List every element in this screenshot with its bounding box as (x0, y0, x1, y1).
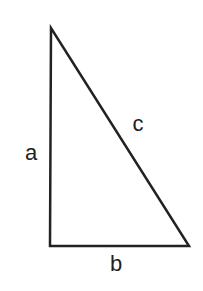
right-triangle (50, 28, 189, 246)
side-b-label: b (110, 253, 122, 275)
side-a-label: a (25, 142, 37, 164)
side-c-label: c (133, 113, 144, 135)
